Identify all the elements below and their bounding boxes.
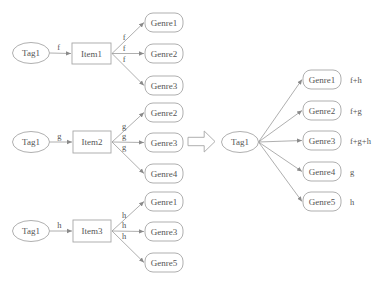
genre-label: Genre2 (151, 49, 178, 59)
combined-weight-label: h (350, 197, 355, 207)
tag-to-genre-edge (259, 142, 303, 202)
item-to-genre-edge (112, 142, 144, 174)
genre-node: Genre3 (145, 222, 183, 241)
genre-label: Genre2 (309, 106, 336, 116)
merged-genre-node: Genre2 (303, 101, 341, 120)
merged-genre-node: Genre1 (303, 70, 341, 89)
tag-item-genre-group: fTag1Item1fGenre1fGenre2fGenre3 (13, 13, 184, 95)
tag-node: Tag1 (222, 132, 259, 153)
genre-label: Genre4 (309, 167, 336, 177)
edge-weight-label: g (122, 142, 127, 152)
tag-to-genre-edge (259, 111, 303, 143)
item-node: Item2 (73, 131, 111, 153)
genre-label: Genre1 (151, 197, 178, 207)
genre-label: Genre1 (309, 75, 336, 85)
combined-weight-label: f+g (350, 106, 363, 116)
combined-weight-label: f+h (350, 75, 363, 85)
item-node: Item1 (72, 43, 111, 64)
tag-label: Tag1 (231, 137, 249, 147)
genre-label: Genre4 (151, 169, 178, 179)
edge-weight-label: h (57, 220, 62, 230)
item-label: Item2 (82, 137, 103, 147)
genre-label: Genre2 (151, 108, 178, 118)
genre-node: Genre1 (145, 13, 183, 32)
genre-node: Genre1 (145, 192, 183, 211)
genre-label: Genre3 (151, 227, 178, 237)
transform-arrow-icon (188, 131, 215, 152)
tag-to-genre-edge (259, 80, 303, 143)
edge-weight-label: f (123, 43, 126, 53)
item-to-genre-edge (112, 113, 144, 143)
item-to-genre-edge (112, 23, 144, 54)
tag-label: Tag1 (22, 137, 40, 147)
item-label: Item3 (82, 226, 103, 236)
edge-weight-label: g (57, 131, 62, 141)
tag-node: Tag1 (13, 43, 50, 64)
combined-weight-label: f+g+h (350, 136, 372, 146)
genre-label: Genre5 (309, 197, 336, 207)
diagram-canvas: fTag1Item1fGenre1fGenre2fGenre3gTag1Item… (0, 0, 383, 286)
genre-label: Genre3 (151, 81, 178, 91)
edge-weight-label: g (122, 121, 127, 131)
tag-to-item-edge (50, 53, 72, 54)
item-node: Item3 (73, 220, 111, 242)
merged-genre-row: Genre3f+g+h (259, 131, 372, 150)
genre-node: Genre4 (145, 164, 183, 183)
edge-weight-label: h (122, 220, 127, 230)
merged-genre-node: Genre3 (303, 131, 341, 150)
item-to-genre-edge (112, 231, 144, 263)
left-groups: fTag1Item1fGenre1fGenre2fGenre3gTag1Item… (13, 13, 184, 272)
genre-node: Genre3 (145, 76, 183, 95)
tag-item-genre-group: gTag1Item2gGenre2gGenre3gGenre4 (13, 103, 184, 183)
edge-weight-label: h (122, 210, 127, 220)
genre-label: Genre3 (151, 138, 178, 148)
edge-weight-label: f (123, 32, 126, 42)
hollow-arrow-shape (188, 131, 215, 152)
tag-label: Tag1 (22, 48, 40, 58)
item-to-genre-edge (112, 202, 144, 232)
item-to-genre-edge (112, 54, 144, 86)
item-label: Item1 (81, 49, 102, 59)
item-to-genre-edge (112, 142, 144, 143)
merged-genre-node: Genre5 (303, 192, 341, 211)
combined-weight-label: g (350, 167, 355, 177)
edge-weight-label: g (122, 131, 127, 141)
tag-node: Tag1 (13, 221, 50, 242)
diagram-svg: fTag1Item1fGenre1fGenre2fGenre3gTag1Item… (0, 0, 383, 286)
edge-weight-label: f (123, 54, 126, 64)
genre-node: Genre2 (145, 103, 183, 122)
merged-genre-node: Genre4 (303, 162, 341, 181)
tag-item-genre-group: hTag1Item3hGenre1hGenre3hGenre5 (13, 192, 184, 272)
tag-node: Tag1 (13, 132, 50, 153)
tag-label: Tag1 (22, 226, 40, 236)
tag-to-genre-edge (259, 142, 303, 172)
edge-weight-label: f (57, 42, 60, 52)
genre-label: Genre3 (309, 136, 336, 146)
item-to-genre-edge (112, 231, 144, 232)
tag-to-genre-edge (259, 141, 303, 143)
genre-node: Genre3 (145, 133, 183, 152)
merged-graph: Genre1f+hGenre2f+gGenre3f+g+hGenre4gGenr… (222, 70, 372, 211)
genre-label: Genre5 (151, 258, 178, 268)
genre-label: Genre1 (151, 18, 178, 28)
edge-weight-label: h (122, 231, 127, 241)
genre-node: Genre5 (145, 253, 183, 272)
genre-node: Genre2 (145, 44, 183, 63)
